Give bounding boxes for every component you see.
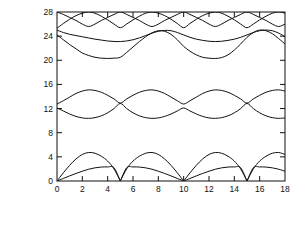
x-tick-label-0: 0 [55,184,60,194]
dispersion-chart: 0246810121416180481216202428 [0,0,300,226]
y-tick-label-28: 28 [44,7,54,17]
y-tick-label-12: 12 [44,104,54,114]
x-tick-label-16: 16 [255,184,265,194]
x-tick-label-6: 6 [131,184,136,194]
x-tick-label-14: 14 [230,184,240,194]
y-tick-label-20: 20 [44,55,54,65]
x-tick-label-4: 4 [105,184,110,194]
y-tick-label-4: 4 [48,152,53,162]
x-tick-label-12: 12 [204,184,214,194]
y-tick-label-24: 24 [44,31,54,41]
x-tick-label-2: 2 [80,184,85,194]
y-tick-label-16: 16 [44,79,54,89]
y-tick-label-0: 0 [48,176,53,186]
y-tick-label-8: 8 [48,128,53,138]
x-tick-label-10: 10 [179,184,189,194]
x-tick-label-18: 18 [280,184,290,194]
x-tick-label-8: 8 [156,184,161,194]
